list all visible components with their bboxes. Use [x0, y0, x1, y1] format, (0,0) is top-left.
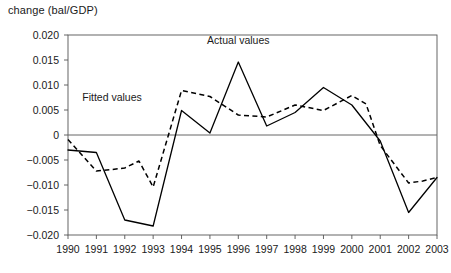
x-axis-tick-label: 2003: [425, 243, 449, 255]
x-axis-tick-label: 1998: [283, 243, 307, 255]
x-axis-tick-label: 1999: [312, 243, 336, 255]
y-axis-tick-label: 0.005: [33, 104, 59, 116]
series-line-fitted-values: [68, 91, 437, 188]
y-axis-tick-label: −0.015: [27, 204, 60, 216]
x-axis-tick-label: 1990: [56, 243, 80, 255]
annotation-fitted-values: Fitted values: [82, 91, 142, 103]
x-axis-tick-label: 2001: [369, 243, 393, 255]
y-axis-tick-label: 0.015: [33, 54, 59, 66]
x-axis-tick-label: 1996: [227, 243, 251, 255]
y-axis-tick-label: −0.020: [27, 229, 60, 241]
y-axis-tick-label: 0.020: [33, 29, 59, 41]
x-axis-tick-label: 1993: [141, 243, 165, 255]
x-axis-tick-label: 1991: [85, 243, 109, 255]
x-axis-tick-label: 1994: [170, 243, 194, 255]
x-axis-tick-label: 2002: [397, 243, 421, 255]
x-axis-tick-label: 1995: [198, 243, 222, 255]
y-axis-tick-label: 0.010: [33, 79, 59, 91]
series-line-actual-values: [68, 62, 437, 226]
x-axis-tick-label: 2000: [340, 243, 364, 255]
y-axis-tick-label: −0.010: [27, 179, 60, 191]
y-axis-tick-label: −0.005: [27, 154, 60, 166]
chart-container: change (bal/GDP) 0.0200.0150.0100.0050−0…: [0, 0, 451, 273]
x-axis-tick-label: 1992: [113, 243, 137, 255]
x-axis-tick-label: 1997: [255, 243, 279, 255]
y-axis-tick-label: 0: [53, 129, 59, 141]
chart-plot-area: 0.0200.0150.0100.0050−0.005−0.010−0.015−…: [0, 0, 451, 273]
annotation-actual-values: Actual values: [207, 34, 269, 46]
